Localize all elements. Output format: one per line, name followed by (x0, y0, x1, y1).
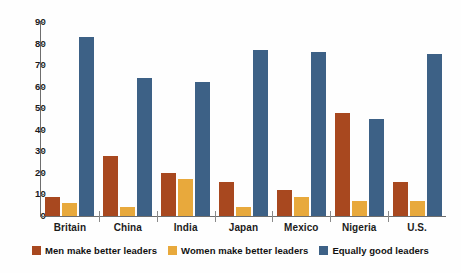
y-axis-tick-mark (40, 87, 45, 88)
x-axis-separator (99, 211, 100, 222)
bar-india-series-2 (178, 179, 193, 216)
bar-us-series-3 (427, 54, 442, 216)
y-axis-tick-mark (40, 44, 45, 45)
bar-nigeria-series-3 (369, 119, 384, 216)
legend-label-2: Women make better leaders (181, 245, 308, 256)
x-axis-line (40, 216, 446, 217)
bar-china-series-3 (137, 78, 152, 216)
legend-swatch-men (32, 246, 41, 255)
bar-japan-series-1 (219, 182, 234, 216)
x-axis-label-mexico: Mexico (272, 222, 330, 233)
x-axis-label-britain: Britain (41, 222, 99, 233)
x-axis-label-china: China (99, 222, 157, 233)
legend-item-2[interactable]: Women make better leaders (168, 245, 308, 256)
bar-nigeria-series-1 (335, 113, 350, 216)
bar-mexico-series-2 (294, 197, 309, 216)
x-axis-separator (388, 211, 389, 222)
legend-swatch-equal (319, 246, 328, 255)
y-axis-tick-mark (40, 108, 45, 109)
x-axis-label-japan: Japan (215, 222, 273, 233)
y-axis-tick-mark (40, 65, 45, 66)
bar-britain-series-1 (45, 197, 60, 216)
x-axis-label-nigeria: Nigeria (330, 222, 388, 233)
legend-item-3[interactable]: Equally good leaders (319, 245, 429, 256)
x-axis-separator (330, 211, 331, 222)
bar-mexico-series-1 (277, 190, 292, 216)
chart-legend: Men make better leadersWomen make better… (0, 245, 461, 256)
legend-label-1: Men make better leaders (45, 245, 157, 256)
bar-china-series-2 (120, 207, 135, 216)
x-axis-separator (215, 211, 216, 222)
legend-swatch-women (168, 246, 177, 255)
bar-us-series-1 (393, 182, 408, 216)
x-axis-label-india: India (157, 222, 215, 233)
bar-china-series-1 (103, 156, 118, 216)
bar-india-series-1 (161, 173, 176, 216)
x-axis-separator (157, 211, 158, 222)
bar-india-series-3 (195, 82, 210, 216)
bar-japan-series-2 (236, 207, 251, 216)
legend-label-3: Equally good leaders (332, 245, 429, 256)
y-axis-tick-mark (40, 151, 45, 152)
y-axis-tick-mark (40, 216, 45, 217)
bar-japan-series-3 (253, 50, 268, 216)
x-axis-label-us: U.S. (388, 222, 446, 233)
x-axis-separator (272, 211, 273, 222)
bar-chart: 9080706050403020100 BritainChinaIndiaJap… (0, 0, 461, 273)
y-axis-tick-mark (40, 173, 45, 174)
bar-mexico-series-3 (311, 52, 326, 216)
y-axis-tick-mark (40, 22, 45, 23)
y-axis-tick-mark (40, 194, 45, 195)
y-axis-tick-mark (40, 130, 45, 131)
bar-us-series-2 (410, 201, 425, 216)
bar-britain-series-3 (79, 37, 94, 216)
bar-britain-series-2 (62, 203, 77, 216)
bar-nigeria-series-2 (352, 201, 367, 216)
legend-item-1[interactable]: Men make better leaders (32, 245, 157, 256)
